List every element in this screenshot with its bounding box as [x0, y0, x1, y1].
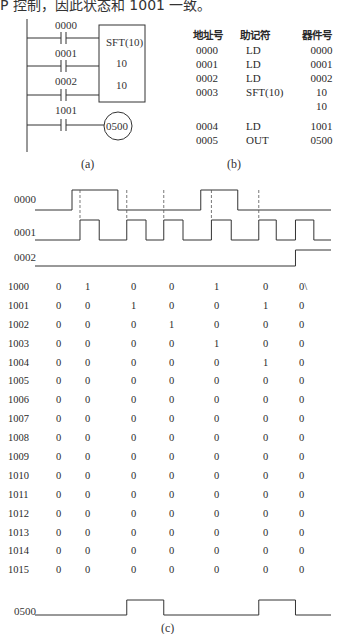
mnemonic-cell: OUT [240, 133, 300, 147]
address-cell: 0003 [193, 85, 240, 99]
register-bit-label: 1000 [8, 281, 29, 292]
register-value: 0 [214, 489, 219, 500]
operand-cell: 10 [300, 85, 343, 99]
register-value: 0 [56, 413, 61, 424]
register-value: 0 [56, 300, 61, 311]
register-value: 0 [299, 357, 304, 368]
program-row: 0004LD1001 [193, 119, 343, 133]
register-value: 0 [85, 432, 90, 443]
register-bit-label: 1008 [8, 432, 29, 443]
address-cell: 0004 [193, 119, 240, 133]
program-row: 10 [193, 99, 343, 119]
register-value: 0 [299, 319, 304, 330]
register-value: 0 [299, 508, 304, 519]
register-value: 0 [85, 470, 90, 481]
program-row: 0003SFT(10)10 [193, 85, 343, 99]
mnemonic-cell: LD [240, 57, 300, 71]
register-value: 0 [299, 451, 304, 462]
register-value: 0 [131, 375, 136, 386]
register-value: 0 [169, 394, 174, 405]
address-cell: 0001 [193, 57, 240, 71]
register-value: 0 [56, 432, 61, 443]
register-value: 0 [263, 281, 268, 292]
register-value: 0 [85, 451, 90, 462]
register-value: 0 [131, 281, 136, 292]
operand-cell: 0000 [300, 43, 343, 57]
waveform-0000 [35, 190, 331, 210]
register-value: 0 [56, 545, 61, 556]
address-cell: 0000 [193, 43, 240, 57]
program-row: 0005OUT0500 [193, 133, 343, 147]
sft-operand: 10 [116, 79, 128, 91]
mnemonic-cell: LD [240, 71, 300, 85]
register-value: 0 [169, 545, 174, 556]
register-value: 0 [169, 413, 174, 424]
register-value: 0 [169, 432, 174, 443]
register-value: 0 [299, 470, 304, 481]
register-value: 0 [214, 545, 219, 556]
register-value: 0 [263, 432, 268, 443]
register-value: 0 [299, 527, 304, 538]
register-value: 1 [214, 338, 219, 349]
register-value: 0 [214, 451, 219, 462]
register-value: 0 [263, 489, 268, 500]
register-value: 0 [214, 470, 219, 481]
register-value: 0 [263, 470, 268, 481]
register-value: 0 [169, 564, 174, 575]
register-value: 0 [263, 527, 268, 538]
register-value: 0 [85, 527, 90, 538]
register-value: 0 [56, 489, 61, 500]
register-value: 0 [131, 394, 136, 405]
register-value: 0 [263, 564, 268, 575]
register-value: 0 [85, 375, 90, 386]
operand-cell: 0001 [300, 57, 343, 71]
program-row: 0001LD0001 [193, 57, 343, 71]
register-value: 0 [299, 564, 304, 575]
register-value: 0 [214, 375, 219, 386]
header-mnemonic: 助记符 [238, 27, 295, 43]
output-coil-label: 0500 [106, 120, 129, 132]
operand-cell: 0500 [300, 133, 343, 147]
operand-cell: 1001 [300, 119, 343, 133]
register-value: 0 [85, 300, 90, 311]
waveform-0001 [35, 220, 331, 240]
register-value: 0 [169, 489, 174, 500]
register-bit-label: 1014 [8, 545, 29, 556]
register-value: 0 [169, 338, 174, 349]
mnemonic-cell: SFT(10) [240, 85, 300, 99]
register-value: 0 [299, 545, 304, 556]
caption-a: (a) [81, 157, 94, 171]
register-value: 0 [299, 300, 304, 311]
timing-diagram [35, 190, 331, 615]
register-value: 0 [56, 451, 61, 462]
operand-cell: 10 [300, 99, 343, 119]
register-value: 0 [131, 413, 136, 424]
caption-b: (b) [227, 157, 241, 171]
program-row: 0002LD0002 [193, 71, 343, 85]
register-value: 0 [131, 470, 136, 481]
register-value: 1 [169, 319, 174, 330]
register-value: 0 [131, 357, 136, 368]
register-value: 0 [169, 375, 174, 386]
register-value: 0 [56, 319, 61, 330]
signal-label: 0002 [14, 251, 36, 263]
register-value: 1 [214, 281, 219, 292]
register-value: 0 [169, 508, 174, 519]
register-value: 0 [56, 564, 61, 575]
register-value: 0 [214, 564, 219, 575]
register-value: 0 [263, 319, 268, 330]
header-operand: 器件号 [295, 27, 339, 43]
register-value: 0 [85, 489, 90, 500]
register-bit-label: 1015 [8, 564, 29, 575]
program-row: 0000LD0000 [193, 43, 343, 57]
register-bit-label: 1003 [8, 338, 29, 349]
register-value: 0 [85, 413, 90, 424]
register-value: 0 [56, 394, 61, 405]
register-value: 0 [169, 527, 174, 538]
register-value: 0 [131, 338, 136, 349]
register-value: 0 [214, 319, 219, 330]
register-value: 0 [131, 319, 136, 330]
register-value: 0 [131, 508, 136, 519]
register-value: 0 [131, 564, 136, 575]
register-value: 0 [169, 357, 174, 368]
